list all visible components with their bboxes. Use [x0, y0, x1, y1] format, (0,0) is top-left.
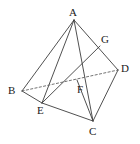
vertex-label-A: A: [69, 7, 77, 18]
edge-B-E: [22, 91, 42, 103]
edge-C-D: [93, 70, 118, 121]
vertex-label-C: C: [89, 126, 96, 137]
edge-E-C: [42, 103, 93, 121]
vertex-label-D: D: [121, 63, 129, 74]
vertex-label-E: E: [37, 105, 44, 116]
edge-A-E: [42, 20, 74, 103]
edge-A-C: [74, 20, 93, 121]
vertex-label-F: F: [77, 84, 83, 95]
edge-E-G: [42, 46, 100, 103]
vertex-label-B: B: [8, 85, 15, 96]
edge-B-D-hidden: [22, 70, 118, 91]
vertex-label-G: G: [101, 34, 109, 45]
geometry-figure: A B C D E F G: [0, 0, 140, 144]
hidden-edge-layer: [22, 70, 118, 91]
edge-A-D: [74, 20, 118, 70]
geometry-canvas: [0, 0, 140, 144]
edge-A-B: [22, 20, 74, 91]
